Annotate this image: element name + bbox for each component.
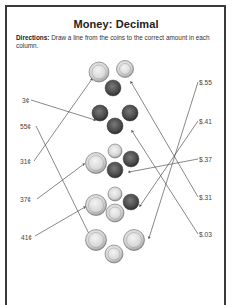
left-amount-55c: 55¢ xyxy=(20,123,31,130)
penny-icon xyxy=(122,105,138,121)
coin-group-37-cents xyxy=(86,144,140,178)
penny-icon xyxy=(92,105,108,121)
coin-group-41-cents xyxy=(86,187,140,222)
right-amount-055: $.55 xyxy=(199,79,212,86)
penny-icon xyxy=(107,162,123,178)
nickel-icon xyxy=(105,245,123,263)
line-37c xyxy=(37,164,84,199)
line-055 xyxy=(149,82,198,238)
line-041 xyxy=(140,121,198,206)
line-41c xyxy=(35,207,85,236)
left-amount-37c: 37¢ xyxy=(20,196,31,203)
nickel-icon xyxy=(106,204,124,222)
line-55c xyxy=(36,126,92,240)
right-amount-003: $.03 xyxy=(199,231,212,238)
left-amount-41c: 41¢ xyxy=(21,234,32,241)
nickel-icon xyxy=(117,61,134,78)
right-amount-037: $.37 xyxy=(199,156,212,163)
penny-icon xyxy=(107,118,123,134)
line-3c xyxy=(31,100,95,120)
dime-icon xyxy=(108,144,122,158)
penny-icon xyxy=(123,194,139,210)
right-amount-031: $.31 xyxy=(199,194,212,201)
line-003 xyxy=(132,131,198,234)
line-31c xyxy=(34,79,92,161)
penny-icon xyxy=(105,80,121,96)
right-amount-041: $.41 xyxy=(199,118,212,125)
left-amount-3c: 3¢ xyxy=(22,97,29,104)
coin-group-55-cents xyxy=(86,230,145,264)
line-037 xyxy=(129,159,198,172)
penny-icon xyxy=(123,151,139,167)
left-amount-31c: 31¢ xyxy=(20,158,31,165)
dime-icon xyxy=(108,187,122,201)
line-031 xyxy=(131,82,198,197)
coin-group-31-cents xyxy=(89,61,134,97)
coin-group-3-cents xyxy=(92,105,138,134)
